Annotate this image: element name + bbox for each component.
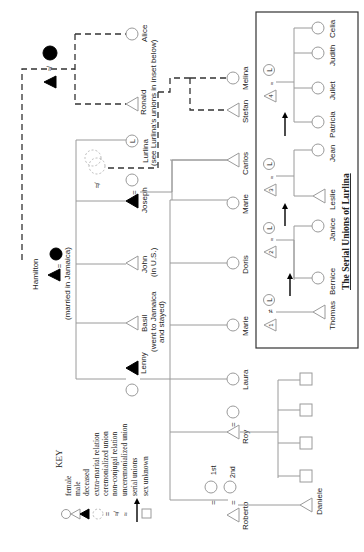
roberto-male-icon: [227, 508, 239, 522]
key-label-extra-marital: extra-marital relation: [92, 432, 101, 496]
union2-stem: [276, 240, 294, 278]
union1-symbol: ≠: [267, 309, 274, 313]
john-note: (in U.S.): [149, 247, 158, 277]
child-sex-unknown-icon: [300, 373, 312, 385]
key-sex-unknown-icon: [142, 509, 151, 518]
key-label-male: male: [73, 481, 82, 496]
thomas-label: Thomas: [328, 301, 337, 330]
patricia-female-icon: [312, 116, 324, 128]
jean-female-icon: [312, 144, 324, 156]
lurlina-initial: L: [129, 139, 136, 143]
patricia-label: Patricia: [328, 111, 337, 138]
ceremonial-symbol: =: [56, 264, 63, 268]
roy-wife-female-icon: [227, 406, 239, 418]
judith-label: Judith: [328, 45, 337, 66]
hamilton-note: (married in Jamaica): [63, 247, 72, 320]
ronald-label: Ronald: [139, 90, 148, 115]
union3-partner-initial: L: [266, 162, 273, 166]
key-unceremonial-symbol: ≈: [122, 512, 129, 516]
alice-label: Alice: [140, 24, 149, 42]
roberto-wife1-female-icon: [205, 481, 217, 493]
stefan-label: Stefan: [241, 100, 250, 123]
key-ceremonial-symbol: =: [104, 512, 111, 516]
ronald-note: (see Lurlina's unions in inset below): [149, 39, 158, 166]
leslie-label: Leslie: [328, 189, 337, 210]
hamilton-deceased-male-icon: [48, 269, 60, 281]
melina-female-icon: [227, 72, 239, 84]
key-deceased-icon: [80, 509, 89, 519]
juliet-label: Juliet: [328, 81, 337, 100]
extra-marital-circle-icon: [89, 158, 105, 174]
stefan-male-icon: [227, 103, 239, 117]
union4-symbol: ≈: [269, 81, 275, 85]
stefan-dashed-line: [190, 78, 228, 110]
child-line: [278, 380, 300, 400]
inset-title: The Serial Unions of Lurlina: [341, 173, 351, 290]
bernice-label: Bernice: [328, 267, 337, 295]
deceased-female-icon: [43, 46, 57, 60]
carlos-label: Carlos: [241, 152, 250, 175]
john-label: John: [140, 256, 149, 273]
alice-female-icon: [126, 28, 138, 40]
deceased-male-icon: [44, 76, 56, 88]
hamilton-label: Hamilton: [31, 258, 40, 290]
joseph-partner-female-icon: [126, 174, 138, 186]
lenny-label: Lenny: [139, 352, 148, 374]
lurlina-label: Lurlina: [141, 138, 150, 163]
celia-label: Celia: [328, 19, 337, 38]
key-label-non-conjugal: non-conjugal relation: [110, 431, 119, 496]
laura-female-icon: [227, 373, 239, 385]
key-female-icon: [62, 510, 71, 519]
key-non-conjugal-symbol: ≉: [113, 511, 120, 516]
inset-serial-unions: The Serial Unions of Lurlina 1 ≠ L Thoma…: [256, 12, 358, 348]
grandparent-couple: ≉: [43, 46, 57, 88]
bernice-female-icon: [312, 272, 324, 284]
basil-male-icon: [126, 316, 138, 330]
key-label-ceremonial: ceremonialized union: [101, 431, 110, 496]
second-wife-label: 2nd: [229, 466, 236, 478]
jean-label: Jean: [328, 145, 337, 162]
lenny-deceased-male-icon: [126, 361, 138, 375]
celia-female-icon: [312, 22, 324, 34]
arrow-head: [282, 203, 288, 209]
key-legend: KEY = ≉ ≈ female male deceased extra-mar…: [54, 423, 151, 522]
roberto-wife2-female-icon: [224, 481, 236, 493]
basil-label: Basil: [140, 314, 149, 332]
first-wife-label: 1st: [210, 466, 217, 475]
key-arrow-head: [134, 498, 140, 504]
non-conjugal-symbol: ≉: [93, 182, 102, 188]
ronald-union-line: [158, 78, 190, 92]
arrow-head: [282, 112, 288, 118]
key-label-sex-unknown: sex unknown: [141, 456, 150, 496]
doris-female-icon: [227, 257, 239, 269]
joseph-deceased-male-icon: [126, 194, 138, 208]
union2-symbol: ≈: [269, 237, 275, 241]
key-label-unceremonial: unceremonialized union: [120, 423, 129, 496]
lenny-line: [76, 298, 126, 379]
child-sex-unknown-icon: [300, 404, 312, 416]
juliet-female-icon: [312, 82, 324, 94]
union4-partner-initial: L: [266, 68, 273, 72]
ronald-male-icon: [126, 97, 138, 111]
union3-symbol: ≈: [269, 175, 275, 179]
melina-label: Melina: [241, 66, 250, 90]
key-male-icon: [71, 509, 80, 519]
key-label-female: female: [64, 475, 73, 496]
leslie-male-icon: [313, 189, 325, 203]
hamilton-wife-deceased-icon: [50, 248, 62, 260]
kinship-diagram: ≉ Alice Ronald (see Lurlina's unions in …: [0, 0, 364, 552]
daniele-male-icon: [300, 498, 312, 512]
janice-female-icon: [312, 220, 324, 232]
child-sex-unknown-icon: [300, 470, 312, 482]
marie1-female-icon: [227, 197, 239, 209]
child-sex-unknown-icon: [300, 437, 312, 449]
lenny-wife-female-icon: [126, 384, 138, 396]
joseph-label: Joseph: [140, 187, 149, 213]
carlos-male-icon: [227, 153, 239, 167]
doris-label: Doris: [241, 255, 250, 274]
janice-label: Janice: [328, 217, 337, 241]
daniele-label: Daniele: [315, 487, 324, 515]
arrow-head: [287, 273, 293, 279]
john-male-icon: [126, 256, 138, 270]
union2-partner-initial: L: [266, 226, 273, 230]
